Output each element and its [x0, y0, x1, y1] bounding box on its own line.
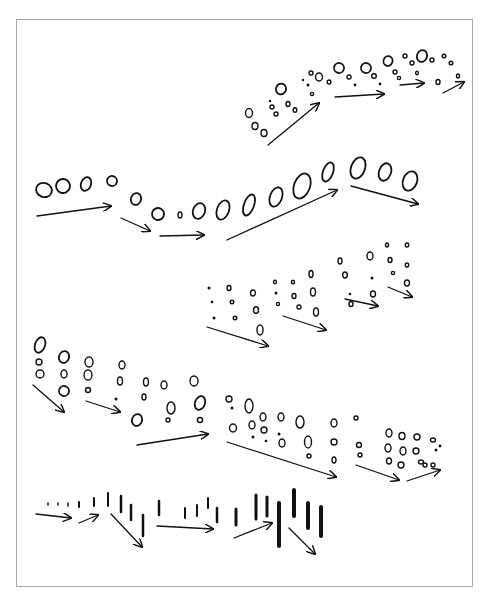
drop-mark [252, 436, 255, 439]
direction-arrow-icon [443, 82, 464, 93]
drop-mark [376, 161, 393, 182]
drop-mark [142, 394, 146, 400]
drop-mark [226, 396, 232, 402]
drop-mark [274, 112, 278, 116]
drop-mark [293, 108, 297, 113]
drop-mark [410, 61, 414, 65]
drop-mark [310, 92, 313, 95]
drop-mark [267, 186, 285, 209]
drop-mark [265, 440, 268, 443]
drop-mark [278, 413, 284, 421]
drop-mark [191, 201, 208, 220]
drop-mark [354, 416, 358, 420]
direction-arrow-icon [157, 526, 213, 529]
drop-mark [309, 271, 313, 278]
direction-arrow-icon [289, 528, 315, 554]
drop-mark [348, 155, 369, 180]
row-3-scattered-drops [207, 243, 412, 346]
drop-mark [397, 76, 400, 79]
drop-mark [305, 436, 312, 448]
drop-mark [198, 418, 203, 423]
drop-mark [386, 243, 389, 247]
drop-mark [257, 325, 263, 335]
drop-mark [115, 398, 118, 401]
direction-arrow-icon [137, 434, 208, 445]
drop-mark [130, 413, 144, 428]
drop-mark [354, 84, 357, 87]
drop-mark [57, 350, 71, 365]
drop-mark [213, 317, 216, 320]
row-5-streaks [36, 490, 321, 554]
drop-mark [405, 263, 408, 267]
drop-mark [349, 293, 352, 296]
drop-mark [343, 272, 348, 278]
drop-mark [320, 161, 336, 183]
drop-mark [274, 82, 287, 96]
drop-mark [84, 370, 92, 380]
drop-mark [327, 80, 331, 84]
drop-mark [245, 399, 253, 413]
direction-arrow-icon [407, 470, 440, 481]
drop-mark [413, 448, 419, 454]
drop-mark [430, 58, 434, 62]
drop-mark [261, 130, 267, 137]
drop-mark [261, 427, 267, 433]
drop-mark [391, 271, 394, 274]
drop-mark [260, 413, 266, 421]
drop-mark [269, 100, 271, 102]
row-4-splash-curls [33, 336, 442, 481]
drop-mark [190, 376, 198, 386]
drop-mark [400, 169, 420, 193]
drop-mark [296, 416, 304, 428]
drop-mark [292, 294, 296, 299]
direction-arrow-icon [400, 83, 424, 85]
row-1-small-circles-arc [246, 49, 465, 145]
direction-arrow-icon [111, 514, 142, 547]
drop-mark [367, 252, 373, 260]
drop-mark [338, 258, 342, 264]
direction-arrow-icon [283, 316, 326, 330]
drop-mark [379, 83, 382, 86]
motion-sketch-diagram [0, 0, 495, 605]
drop-mark [331, 419, 337, 427]
drop-mark [314, 308, 319, 316]
drop-mark [307, 454, 311, 458]
drop-mark [54, 177, 72, 195]
drop-mark [129, 192, 143, 207]
drop-mark [79, 176, 93, 193]
drop-mark [347, 75, 351, 79]
drop-mark [388, 258, 392, 263]
direction-arrow-icon [351, 186, 418, 204]
drop-mark [166, 418, 170, 422]
drop-mark [150, 206, 165, 221]
drop-mark [230, 424, 237, 432]
drop-mark [405, 280, 410, 286]
drop-mark [309, 71, 313, 75]
drop-mark [118, 377, 123, 385]
drop-mark [414, 434, 420, 440]
drop-mark [439, 445, 442, 448]
drop-mark [286, 102, 290, 107]
drop-mark [227, 286, 231, 291]
direction-arrow-icon [388, 287, 412, 297]
drop-mark [403, 54, 407, 58]
drop-mark [431, 438, 436, 442]
drop-mark [85, 357, 93, 367]
drop-mark [214, 199, 232, 222]
drop-mark [302, 79, 304, 81]
drop-mark [167, 402, 175, 414]
drop-mark [382, 55, 394, 67]
drop-mark [357, 443, 362, 448]
direction-arrow-icon [37, 206, 111, 216]
drop-mark [144, 378, 149, 386]
drop-mark [249, 421, 255, 429]
drop-mark [307, 84, 310, 87]
drop-mark [251, 290, 256, 296]
drop-mark [360, 62, 373, 75]
drop-mark [36, 370, 44, 378]
drop-mark [178, 212, 182, 218]
drop-mark [246, 109, 253, 118]
drop-mark [278, 433, 281, 436]
drop-mark [231, 407, 234, 410]
drop-mark [435, 449, 438, 452]
